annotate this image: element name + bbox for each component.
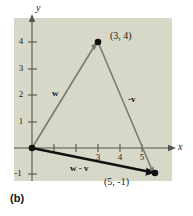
x-axis-arrowhead <box>168 145 176 151</box>
vector-plot-svg <box>0 0 193 216</box>
y-tick-label-neg1: -1 <box>10 168 26 178</box>
label-point-5-neg1: (5, -1) <box>104 176 129 187</box>
y-tick-label-3: 3 <box>15 63 27 73</box>
label-point-3-4: (3, 4) <box>110 30 132 41</box>
y-tick-label-1: 1 <box>15 116 27 126</box>
point-3-4 <box>95 39 102 46</box>
vector-w <box>32 42 98 148</box>
figure-caption: (b) <box>10 192 24 204</box>
label-vector-w-minus-v: w - v <box>70 163 89 173</box>
label-vector-w: w <box>52 88 59 98</box>
x-axis-label: x <box>178 141 182 152</box>
y-axis-label: y <box>36 2 40 13</box>
vector-diagram-figure: y x 3 4 5 1 2 3 4 -1 w -v w - v (3, 4) (… <box>0 0 193 216</box>
point-5-neg1 <box>152 170 159 177</box>
label-vector-negative-v: -v <box>128 94 136 104</box>
y-tick-label-2: 2 <box>15 89 27 99</box>
x-tick-label-4: 4 <box>114 152 126 162</box>
y-axis-arrowhead <box>29 14 35 22</box>
x-tick-label-3: 3 <box>92 152 104 162</box>
y-tick-label-4: 4 <box>15 36 27 46</box>
x-tick-label-5: 5 <box>136 152 148 162</box>
point-origin <box>29 145 36 152</box>
